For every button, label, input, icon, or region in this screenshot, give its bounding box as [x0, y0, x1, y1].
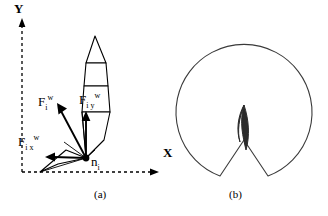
label-force-y-sup: w [94, 91, 100, 100]
label-node-ni: ni [91, 153, 100, 172]
label-resultant-force: Fiw [38, 93, 53, 112]
label-resultant-force-sup: w [47, 93, 53, 102]
panel-b: The view sensor [160, 0, 328, 216]
figure-container: Y Fiw Fi yw Fi xw ni X [0, 0, 328, 216]
label-force-x-sup: w [33, 133, 39, 142]
node-point-ni [83, 155, 90, 162]
y-axis-label: Y [14, 2, 23, 15]
label-force-x-sub: i x [25, 143, 33, 152]
panel-a: Y Fiw Fi yw Fi xw ni [0, 0, 180, 216]
label-resultant-force-sub: i [45, 103, 47, 112]
label-node-ni-sub: i [98, 163, 100, 172]
caption-panel-b: (b) [229, 189, 242, 200]
label-force-y-component: Fi yw [79, 91, 100, 110]
panel-b-drawing [160, 0, 328, 216]
label-force-x-component: Fi xw [18, 133, 39, 152]
caption-panel-a: (a) [94, 189, 106, 200]
label-force-y-sub: i y [86, 101, 94, 110]
